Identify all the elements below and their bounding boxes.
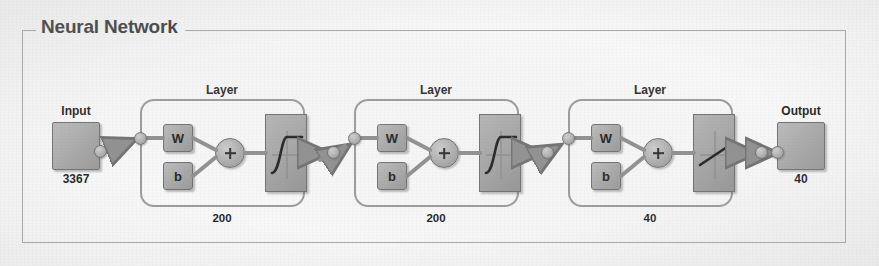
input-junction-dot xyxy=(94,145,107,158)
neural-network-diagram: Neural Network xyxy=(0,0,879,266)
layer-3-output-dot xyxy=(755,146,768,159)
layer-3-input-dot xyxy=(562,132,575,145)
connection-wires xyxy=(0,0,879,266)
output-junction-dot xyxy=(771,146,784,159)
layer-1-input-dot xyxy=(134,132,147,145)
layer-2-output-dot xyxy=(541,146,554,159)
layer-2-input-dot xyxy=(348,132,361,145)
layer-1-output-dot xyxy=(327,146,340,159)
